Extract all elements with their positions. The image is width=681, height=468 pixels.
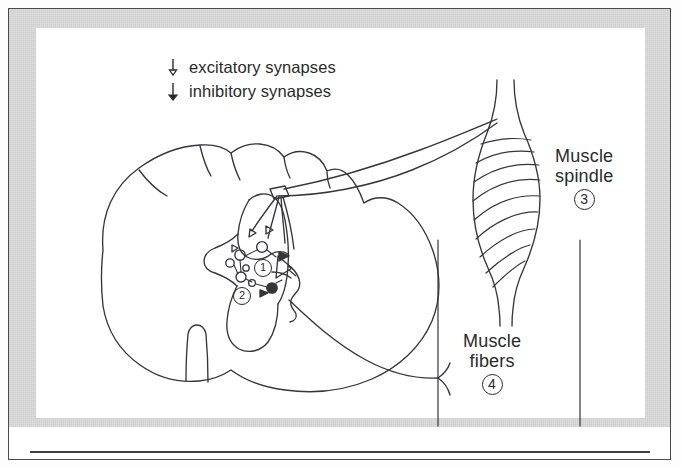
label-muscle-spindle: Muscle spindle 3: [555, 146, 613, 210]
muscle-spindle-hatching: [473, 139, 540, 287]
dorsal-sulcus-crease-4: [284, 157, 290, 178]
label-muscle-spindle-line2: spindle: [555, 166, 613, 186]
ventral-median-fissure: [186, 325, 208, 382]
marker-2: 2: [233, 287, 251, 305]
sensory-afferent-fiber-upper: [284, 119, 497, 189]
legend: excitatory synapses inhibitory synapses: [166, 57, 336, 101]
afferent-branch-to-interneuron-a: [252, 196, 277, 231]
legend-item-inhibitory: inhibitory synapses: [166, 81, 336, 101]
label-muscle-fibers: Muscle fibers 4: [463, 331, 521, 395]
interneuron-cell-3: [243, 265, 249, 271]
marker-1: 1: [254, 259, 272, 277]
legend-item-excitatory: excitatory synapses: [166, 57, 336, 77]
marker-4: 4: [482, 374, 503, 395]
renshaw-cell: [267, 283, 277, 293]
muscle-spindle-outline: [473, 80, 540, 326]
figure-artwork: [0, 0, 681, 468]
sensory-afferent-fiber-lower: [278, 123, 497, 196]
marker-1-wrap: 1: [254, 257, 272, 277]
interneuron-cell-6: [257, 242, 268, 253]
label-muscle-fibers-line2: fibers: [463, 351, 521, 371]
excitatory-synapse-symbol: [166, 57, 180, 77]
motor-efferent-fiber: [289, 300, 438, 378]
motor-efferent-terminal-branch-upper: [438, 363, 450, 378]
dorsal-sulcus-crease-1: [139, 170, 167, 196]
dorsal-sulcus-crease-5: [327, 172, 330, 188]
interneuron-cell-2: [226, 259, 234, 267]
label-muscle-spindle-line1: Muscle: [555, 146, 613, 166]
inhibitory-synapse-symbol: [166, 81, 180, 101]
dorsal-sulcus-crease-3: [231, 153, 240, 180]
figure-root: excitatory synapses inhibitory synapses …: [0, 0, 681, 468]
marker-2-wrap: 2: [233, 285, 251, 305]
marker-3: 3: [574, 189, 595, 210]
legend-label-excitatory: excitatory synapses: [189, 58, 336, 76]
label-muscle-fibers-line1: Muscle: [463, 331, 521, 351]
dorsal-sulcus-crease-2: [200, 146, 211, 176]
legend-label-inhibitory: inhibitory synapses: [189, 82, 331, 100]
motor-efferent-terminal-branch-lower: [438, 378, 450, 395]
